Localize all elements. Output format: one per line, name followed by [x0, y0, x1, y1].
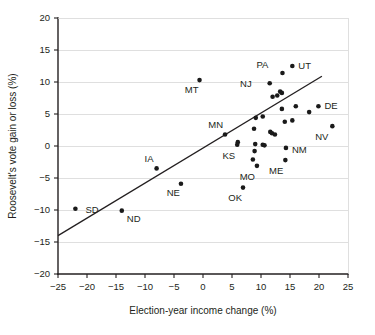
data-point — [260, 114, 265, 119]
data-point — [73, 206, 78, 211]
data-point — [262, 143, 267, 148]
data-point — [255, 164, 260, 169]
data-point — [179, 181, 184, 186]
x-tick-label: 0 — [200, 281, 205, 292]
data-point — [294, 104, 299, 109]
y-axis-ticks: 20151050−5−10−15−20 — [34, 12, 58, 279]
data-point-label: MO — [240, 171, 255, 182]
data-point — [316, 104, 321, 109]
data-point-label: NE — [167, 187, 180, 198]
x-tick-label: 10 — [256, 281, 267, 292]
data-point-label: SD — [85, 204, 98, 215]
data-point-label: NM — [292, 144, 307, 155]
x-tick-label: −20 — [79, 281, 95, 292]
data-point-label: ND — [127, 213, 141, 224]
x-tick-label: 15 — [285, 281, 296, 292]
x-tick-label: −5 — [169, 281, 180, 292]
data-point — [154, 166, 159, 171]
data-point — [280, 91, 285, 96]
data-point-label: NV — [315, 131, 329, 142]
x-axis-title: Election-year income change (%) — [129, 305, 276, 316]
data-point — [120, 208, 125, 213]
y-tick-label: −20 — [34, 268, 50, 279]
y-axis-title: Roosevelt's vote gain or loss (%) — [7, 73, 18, 218]
y-tick-label: 5 — [45, 108, 50, 119]
y-tick-label: −15 — [34, 236, 50, 247]
data-point-label: NJ — [240, 78, 252, 89]
data-point — [330, 124, 335, 129]
data-point-label: DE — [324, 100, 337, 111]
data-point — [280, 71, 285, 76]
data-point — [290, 64, 295, 69]
data-point — [253, 116, 258, 121]
data-point — [223, 132, 228, 137]
data-point — [236, 140, 241, 145]
x-tick-label: −25 — [50, 281, 66, 292]
y-tick-label: −5 — [39, 172, 50, 183]
y-tick-label: 20 — [39, 12, 50, 23]
x-tick-label: −15 — [108, 281, 124, 292]
data-point — [251, 157, 256, 162]
data-point-label: UT — [298, 60, 311, 71]
data-point — [283, 158, 288, 163]
data-point-label: IA — [145, 153, 155, 164]
x-tick-label: 25 — [343, 281, 354, 292]
x-tick-label: 20 — [314, 281, 325, 292]
x-axis-ticks: −25−20−15−10−50510152025 — [50, 274, 353, 292]
chart-canvas: 20151050−5−10−15−20 −25−20−15−10−5051015… — [0, 0, 375, 335]
scatter-chart-figure: 20151050−5−10−15−20 −25−20−15−10−5051015… — [0, 0, 375, 335]
data-point — [253, 142, 258, 147]
data-point — [270, 94, 275, 99]
data-point-label: KS — [223, 150, 236, 161]
data-point — [307, 110, 312, 115]
data-point — [267, 81, 272, 86]
data-point — [252, 149, 257, 154]
data-point — [290, 118, 295, 123]
data-points: SDNDIANEMTMNKSOKMONJPAMENMUTDENV — [73, 59, 338, 224]
x-tick-label: −10 — [137, 281, 153, 292]
data-point — [252, 126, 257, 131]
data-point-label: MT — [185, 84, 199, 95]
data-point — [284, 146, 289, 151]
data-point — [280, 107, 285, 112]
y-tick-label: 0 — [45, 140, 50, 151]
data-point — [275, 93, 280, 98]
data-point-label: OK — [228, 192, 242, 203]
data-point — [241, 185, 246, 190]
data-point-label: PA — [256, 59, 269, 70]
y-tick-label: 15 — [39, 44, 50, 55]
y-tick-label: −10 — [34, 204, 50, 215]
data-point — [197, 78, 202, 83]
data-point — [282, 119, 287, 124]
y-tick-label: 10 — [39, 76, 50, 87]
data-point-label: ME — [269, 165, 283, 176]
data-point-label: MN — [208, 119, 223, 130]
x-tick-label: 5 — [229, 281, 234, 292]
data-point — [273, 132, 278, 137]
